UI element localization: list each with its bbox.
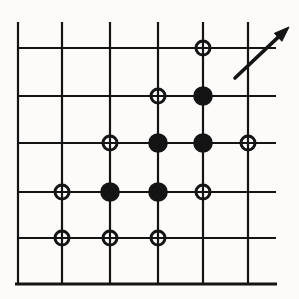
occupied-site-marker [148, 182, 168, 202]
occupied-site-marker [193, 86, 213, 106]
diagram-background [0, 0, 299, 299]
figure-container [0, 0, 299, 299]
occupied-site-marker [148, 133, 168, 153]
diagram-svg [0, 0, 299, 299]
occupied-site-marker [100, 182, 120, 202]
occupied-site-marker [193, 133, 213, 153]
diagram-canvas [0, 0, 299, 299]
